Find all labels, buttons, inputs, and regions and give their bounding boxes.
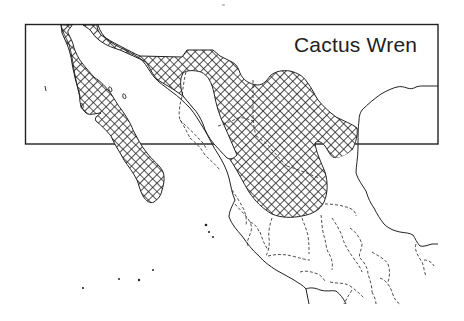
island-dot (138, 279, 140, 281)
state-border (268, 255, 310, 261)
coastline-gulf-east (359, 86, 438, 121)
map-title: Cactus Wren (294, 33, 417, 57)
island (123, 94, 126, 99)
state-border (372, 252, 390, 282)
state-border (330, 282, 364, 298)
state-border (302, 218, 309, 254)
state-border (325, 204, 356, 216)
state-border (232, 190, 246, 226)
state-border (266, 218, 272, 256)
state-border (321, 215, 332, 270)
island-dot (82, 287, 84, 289)
range-baja (61, 25, 164, 203)
state-border (350, 228, 362, 258)
island-dot (205, 224, 208, 227)
state-border (380, 278, 400, 304)
island-dot (118, 278, 120, 280)
state-border (260, 232, 268, 250)
state-border (300, 271, 326, 282)
state-border (332, 218, 362, 272)
island-dots (82, 224, 214, 289)
state-border (235, 204, 252, 246)
island-dot (152, 269, 154, 271)
island (109, 87, 112, 92)
coastline-south (306, 288, 346, 304)
island-dot (208, 231, 210, 233)
state-border (424, 260, 434, 266)
coastline-gulf-south (356, 121, 438, 246)
state-border (372, 292, 376, 304)
island-dot (212, 236, 214, 238)
state-border (360, 258, 372, 292)
island (45, 86, 46, 91)
